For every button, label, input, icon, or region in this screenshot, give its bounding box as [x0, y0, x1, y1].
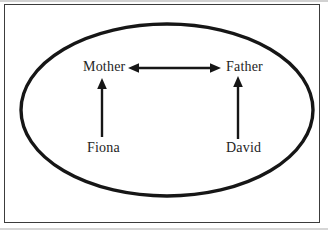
fiona-mother-arrow: [97, 78, 107, 137]
node-label-father: Father: [226, 59, 263, 75]
mother-father-arrow: [128, 63, 221, 73]
node-label-mother: Mother: [83, 59, 125, 75]
arrowhead-up-icon: [233, 76, 243, 87]
david-father-arrow: [233, 76, 243, 139]
node-label-david: David: [226, 140, 261, 156]
node-label-fiona: Fiona: [87, 140, 120, 156]
arrowhead-up-icon: [97, 78, 107, 89]
family-diagram-figure: Mother Father Fiona David: [0, 0, 328, 233]
family-boundary-ellipse: [21, 24, 313, 196]
diagram-canvas: [0, 0, 328, 233]
arrowhead-left-icon: [128, 63, 139, 73]
arrowhead-right-icon: [210, 63, 221, 73]
